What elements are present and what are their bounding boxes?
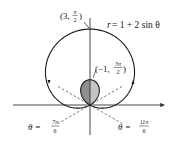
svg-text:r: r: [107, 20, 111, 30]
label-theta-11pi-over-6: θ = 11π 6: [118, 119, 149, 134]
svg-text:3π: 3π: [114, 61, 122, 67]
label-point-neg1-3pi-over-2: (−1, 3π 2 ): [95, 61, 126, 75]
svg-text:π: π: [73, 9, 77, 15]
svg-text:θ =: θ =: [28, 122, 41, 132]
label-point-3-pi-over-2: (3, π 2 ): [60, 9, 82, 23]
label-theta-7pi-over-6: θ = 7π 6: [28, 119, 59, 134]
equation-label: r = 1 + 2 sin θ: [107, 20, 160, 30]
svg-text:7π: 7π: [52, 119, 59, 125]
svg-text:(−1,: (−1,: [95, 64, 110, 74]
svg-text:2: 2: [117, 69, 120, 75]
svg-text:2: 2: [74, 17, 77, 23]
svg-text:11π: 11π: [140, 119, 150, 125]
svg-text:): ): [123, 64, 126, 74]
curve-direction-arrow-left: [48, 80, 51, 84]
svg-text:6: 6: [143, 128, 146, 134]
svg-text:6: 6: [54, 128, 57, 134]
polar-limacon-diagram: (3, π 2 ) r = 1 + 2 sin θ (−1, 3π 2 ) θ …: [0, 0, 177, 145]
svg-text:= 1 + 2 sin θ: = 1 + 2 sin θ: [112, 20, 160, 30]
svg-text:): ): [79, 11, 82, 21]
svg-text:θ =: θ =: [118, 122, 131, 132]
point-pointer-3-pi-2: [84, 22, 89, 28]
svg-text:(3,: (3,: [60, 11, 70, 21]
